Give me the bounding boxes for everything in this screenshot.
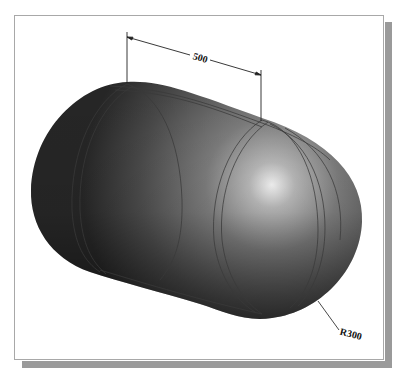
dimension-line-right bbox=[210, 60, 261, 75]
length-dimension-label: 500 bbox=[192, 50, 209, 65]
capsule-body bbox=[31, 82, 362, 319]
radius-leader-line bbox=[318, 301, 339, 330]
capsule-drawing: 500 R300 bbox=[0, 0, 403, 374]
radius-dimension bbox=[318, 301, 339, 330]
dimension-line-left bbox=[127, 37, 190, 55]
radius-dimension-label: R300 bbox=[339, 326, 363, 342]
